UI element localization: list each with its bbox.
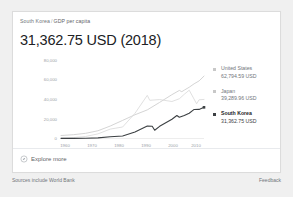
- breadcrumb-region[interactable]: South Korea: [20, 18, 50, 24]
- legend-item-united-states[interactable]: United States 62,794.59 USD: [213, 65, 281, 79]
- series-lines: [61, 76, 204, 138]
- chart-svg: 80,000 60,000 40,000 20,000 0 1960 1970 …: [18, 55, 208, 155]
- y-tick-label-4: 0: [55, 136, 58, 141]
- chart-legend: United States 62,794.59 USD Japan 39,289…: [213, 65, 281, 133]
- line-chart[interactable]: 80,000 60,000 40,000 20,000 0 1960 1970 …: [18, 55, 208, 155]
- gdp-chart-card: South Korea/GDP per capita 31,362.75 USD…: [12, 11, 281, 173]
- legend-bullet-icon: [213, 68, 216, 71]
- y-tick-label-0: 80,000: [44, 58, 58, 63]
- legend-bullet-icon: [213, 113, 216, 116]
- legend-item-value: 31,362.75 USD: [221, 118, 281, 125]
- legend-item-label: Japan: [221, 88, 281, 95]
- breadcrumb: South Korea/GDP per capita: [20, 18, 90, 24]
- y-tick-label-3: 20,000: [44, 117, 58, 122]
- explore-compass-icon: [20, 155, 28, 163]
- y-axis-ticks: 80,000 60,000 40,000 20,000 0: [44, 58, 58, 142]
- legend-item-label: South Korea: [221, 110, 281, 117]
- legend-item-value: 39,289.96 USD: [221, 95, 281, 102]
- legend-item-label: United States: [221, 65, 281, 72]
- footer-source-text: Sources include World Bank: [12, 177, 75, 183]
- endpoint-marker-south-korea: [203, 106, 206, 109]
- legend-item-south-korea[interactable]: South Korea 31,362.75 USD: [213, 110, 281, 124]
- legend-item-value: 62,794.59 USD: [221, 73, 281, 80]
- screenshot-page: South Korea/GDP per capita 31,362.75 USD…: [0, 0, 293, 197]
- legend-bullet-icon: [213, 90, 216, 93]
- y-tick-label-2: 40,000: [44, 97, 58, 102]
- explore-more-label: Explore more: [31, 156, 67, 162]
- series-line-united-states: [61, 76, 204, 135]
- breadcrumb-metric[interactable]: GDP per capita: [54, 18, 91, 24]
- card-divider: [13, 148, 280, 149]
- feedback-link[interactable]: Feedback: [259, 177, 281, 183]
- card-footer: Sources include World Bank Feedback: [12, 177, 281, 183]
- page-title: 31,362.75 USD (2018): [20, 32, 161, 48]
- explore-more-button[interactable]: Explore more: [20, 155, 67, 163]
- series-line-japan: [61, 90, 204, 138]
- y-tick-label-1: 60,000: [44, 77, 58, 82]
- legend-item-japan[interactable]: Japan 39,289.96 USD: [213, 88, 281, 102]
